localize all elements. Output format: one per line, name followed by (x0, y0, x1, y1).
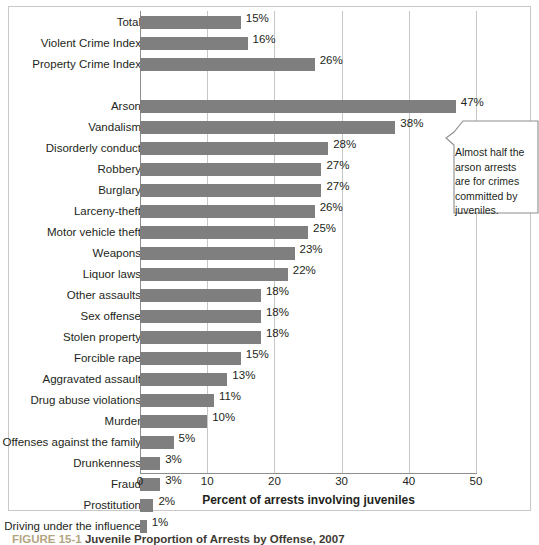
chart-row: Total15% (9, 12, 530, 33)
bar-wrapper (140, 226, 308, 239)
bar-value-label: 15% (246, 347, 269, 362)
bar-value-label: 25% (313, 221, 336, 236)
x-tick-label-0: 0 (125, 475, 155, 487)
chart-row: Offenses against the family5% (9, 432, 530, 453)
bar (140, 268, 288, 281)
bar-wrapper (140, 394, 214, 407)
category-label: Disorderly conduct (46, 138, 141, 159)
x-tick-label-20: 20 (259, 475, 289, 487)
chart-row: Forcible rape15% (9, 348, 530, 369)
bar-value-label: 23% (300, 242, 323, 257)
bar-value-label: 13% (232, 368, 255, 383)
bar-wrapper (140, 457, 160, 470)
category-label: Arson (111, 96, 141, 117)
bar-wrapper (140, 58, 315, 71)
x-tick-label-10: 10 (192, 475, 222, 487)
bar (140, 289, 261, 302)
bar-wrapper (140, 352, 241, 365)
figure-frame: Total15%Violent Crime Index16%Property C… (8, 6, 531, 511)
chart-row: Violent Crime Index16% (9, 33, 530, 54)
bar-value-label: 28% (333, 137, 356, 152)
category-label: Forcible rape (74, 348, 141, 369)
bar (140, 58, 315, 71)
chart-row: Other assaults18% (9, 285, 530, 306)
bar (140, 226, 308, 239)
bar-wrapper (140, 436, 174, 449)
category-label: Sex offense (80, 306, 141, 327)
bar-value-label: 27% (326, 179, 349, 194)
category-label: Total (117, 12, 141, 33)
bar-value-label: 16% (253, 32, 276, 47)
figure-caption-title: Juvenile Proportion of Arrests by Offens… (85, 533, 345, 545)
chart-row: Liquor laws22% (9, 264, 530, 285)
bar (140, 121, 395, 134)
x-axis-line (140, 473, 477, 474)
bar-wrapper (140, 520, 147, 533)
bar-wrapper (140, 289, 261, 302)
bar (140, 415, 207, 428)
bar (140, 457, 160, 470)
bar (140, 142, 328, 155)
bar (140, 205, 315, 218)
bar (140, 37, 248, 50)
category-label: Drunkenness (73, 453, 141, 474)
bar-value-label: 10% (212, 410, 235, 425)
chart-row: Property Crime Index26% (9, 54, 530, 75)
bar-wrapper (140, 37, 248, 50)
bar-value-label: 1% (152, 515, 169, 530)
category-label: Vandalism (88, 117, 141, 138)
chart-row: Weapons23% (9, 243, 530, 264)
category-label: Weapons (93, 243, 141, 264)
bar-value-label: 22% (293, 263, 316, 278)
bar-value-label: 3% (165, 473, 182, 488)
bar-wrapper (140, 415, 207, 428)
category-label: Property Crime Index (32, 54, 141, 75)
bar (140, 16, 241, 29)
bar-value-label: 18% (266, 284, 289, 299)
bar (140, 373, 227, 386)
chart-row: Sex offense18% (9, 306, 530, 327)
chart-row: Arson47% (9, 96, 530, 117)
bar (140, 436, 174, 449)
bar (140, 163, 321, 176)
bar (140, 310, 261, 323)
bar (140, 352, 241, 365)
bar-wrapper (140, 100, 456, 113)
category-label: Stolen property (63, 327, 141, 348)
chart-row: Drunkenness3% (9, 453, 530, 474)
bar-value-label: 3% (165, 452, 182, 467)
x-axis-title: Percent of arrests involving juveniles (140, 493, 477, 507)
bar-value-label: 26% (320, 53, 343, 68)
bar-value-label: 15% (246, 11, 269, 26)
chart-row: Stolen property18% (9, 327, 530, 348)
bar (140, 520, 147, 533)
callout-annotation: Almost half the arson arrests are for cr… (441, 119, 539, 221)
chart-row: Aggravated assault13% (9, 369, 530, 390)
bar-wrapper (140, 142, 328, 155)
bar-value-label: 11% (219, 389, 241, 404)
category-label: Drug abuse violations (30, 390, 141, 411)
x-tick-label-30: 30 (327, 475, 357, 487)
bar-value-label: 18% (266, 305, 289, 320)
figure-caption: FIGURE 15-1 Juvenile Proportion of Arres… (12, 533, 532, 545)
category-label: Violent Crime Index (41, 33, 141, 54)
callout-text: Almost half the arson arrests are for cr… (455, 145, 533, 218)
chart-row: Drug abuse violations11% (9, 390, 530, 411)
bar-wrapper (140, 268, 288, 281)
category-label: Offenses against the family (3, 432, 142, 453)
category-label: Aggravated assault (43, 369, 141, 390)
category-label: Liquor laws (83, 264, 141, 285)
bar-wrapper (140, 16, 241, 29)
x-tick-label-50: 50 (461, 475, 491, 487)
bar (140, 100, 456, 113)
category-label: Burglary (98, 180, 141, 201)
chart-row: Murder10% (9, 411, 530, 432)
bar-wrapper (140, 247, 295, 260)
figure-caption-number: FIGURE 15-1 (12, 533, 82, 545)
bar-wrapper (140, 310, 261, 323)
bar (140, 394, 214, 407)
bar-wrapper (140, 121, 395, 134)
bar-value-label: 26% (320, 200, 343, 215)
bar-value-label: 18% (266, 326, 289, 341)
bar-value-label: 47% (461, 95, 484, 110)
